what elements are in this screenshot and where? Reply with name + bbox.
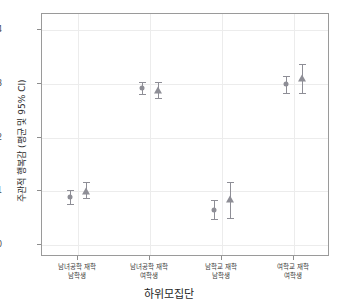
- gridline-vertical: [222, 14, 223, 255]
- y-axis-tick-mark: [37, 83, 41, 84]
- x-axis-tick-label-line1: 남녀공학 재학: [130, 263, 168, 271]
- error-bar-cap: [211, 200, 218, 201]
- gridline-vertical: [150, 14, 151, 255]
- x-axis-tick-label-line2: 여학생: [247, 272, 338, 281]
- y-axis-tick-label: 2.0: [0, 240, 2, 249]
- error-bar-cap: [227, 182, 234, 183]
- error-bar-cap: [299, 64, 306, 65]
- error-bar-cap: [139, 94, 146, 95]
- error-bar-cap: [155, 82, 162, 83]
- y-axis-tick-label: 2.2: [0, 132, 2, 141]
- y-axis-tick-mark: [37, 29, 41, 30]
- error-bar-cap: [155, 98, 162, 99]
- error-bar-cap: [211, 219, 218, 220]
- x-axis-tick-mark: [149, 256, 150, 260]
- y-axis-tick-mark: [37, 190, 41, 191]
- x-axis-tick-label-line1: 남학교 재학: [205, 263, 237, 271]
- data-point-circle: [212, 207, 217, 212]
- data-point-circle: [284, 82, 289, 87]
- error-bar-cap: [139, 82, 146, 83]
- chart-title-strip: [0, 0, 338, 7]
- x-axis-tick-mark: [293, 256, 294, 260]
- x-axis-tick-label-line1: 여학교 재학: [277, 263, 309, 271]
- x-axis-tick-label: 여학교 재학여학생: [247, 263, 338, 281]
- subjective-happiness-ci-chart: 2.02.12.22.32.4 주관적 행복감 (평균 및 95% CI) 남녀…: [0, 0, 338, 301]
- y-axis-tick-label: 2.4: [0, 25, 2, 34]
- error-bar-cap: [67, 204, 74, 205]
- data-point-circle: [140, 86, 145, 91]
- error-bar-cap: [83, 198, 90, 199]
- data-point-circle: [68, 195, 73, 200]
- error-bar-cap: [283, 93, 290, 94]
- error-bar-cap: [283, 76, 290, 77]
- data-point-triangle: [298, 74, 306, 81]
- x-axis-tick-mark: [77, 256, 78, 260]
- data-point-triangle: [82, 187, 90, 194]
- y-axis-tick-mark: [37, 137, 41, 138]
- gridline-vertical: [78, 14, 79, 255]
- error-bar-cap: [83, 182, 90, 183]
- gridline-horizontal: [42, 138, 328, 139]
- y-axis-tick-mark: [37, 244, 41, 245]
- error-bar-cap: [299, 93, 306, 94]
- data-point-triangle: [154, 86, 162, 93]
- plot-panel: [41, 13, 329, 256]
- y-axis-label: 주관적 행복감 (평균 및 95% CI): [15, 51, 28, 231]
- gridline-horizontal: [42, 30, 328, 31]
- gridline-vertical: [294, 14, 295, 255]
- x-axis-label: 하위모집단: [0, 285, 338, 301]
- y-axis-tick-label: 2.1: [0, 186, 2, 195]
- error-bar-cap: [227, 218, 234, 219]
- x-axis-tick-mark: [221, 256, 222, 260]
- y-axis-tick-label: 2.3: [0, 78, 2, 87]
- error-bar-cap: [67, 190, 74, 191]
- x-axis-tick-label-line1: 남녀공학 재학: [58, 263, 96, 271]
- gridline-horizontal: [42, 245, 328, 246]
- data-point-triangle: [226, 195, 234, 202]
